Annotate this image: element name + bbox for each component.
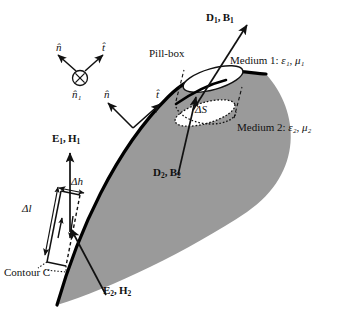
n-hat-surface-arrow	[108, 103, 133, 128]
medium1-label: Medium 1: ε₁, μ₁	[230, 55, 304, 67]
figure-root: Pill-box D1, B1 D2, B2 E1, H1 E2, H2 Med…	[0, 0, 341, 315]
n1-hat-triad-label: n̂₁	[72, 88, 81, 100]
unit-vector-triad	[58, 55, 103, 86]
contour-c-label: Contour C	[4, 267, 50, 279]
t-hat-surface-label: t̂	[156, 88, 159, 100]
comma-sep: ,	[218, 11, 221, 23]
d1-b1-label: D1, B1	[206, 12, 234, 24]
n-hat-triad-label: n̂	[56, 41, 62, 53]
delta-h-label: Δh	[71, 176, 83, 188]
delta-l-label: Δl	[22, 203, 32, 215]
e1-h1-label: E1, H1	[52, 133, 80, 145]
n-hat-triad-arrow	[58, 55, 76, 71]
pill-box-label: Pill-box	[149, 48, 184, 60]
medium2-label: Medium 2: ε₂, μ₂	[237, 122, 311, 134]
delta-h-measure	[59, 188, 84, 193]
delta-l-measure	[45, 187, 58, 255]
n-hat-surface-label: n̂	[104, 88, 110, 100]
d2-b2-label: D2, B2	[153, 167, 181, 179]
contour-left-edge	[47, 191, 61, 262]
medium2-params: ε₂, μ₂	[288, 121, 311, 133]
medium1-params: ε₁, μ₁	[281, 54, 304, 66]
delta-s-label: ΔS	[195, 104, 207, 116]
e2-h2-label: E2, H2	[103, 285, 131, 297]
t-hat-triad-arrow	[85, 55, 103, 71]
t-hat-triad-label: t̂	[102, 41, 105, 53]
